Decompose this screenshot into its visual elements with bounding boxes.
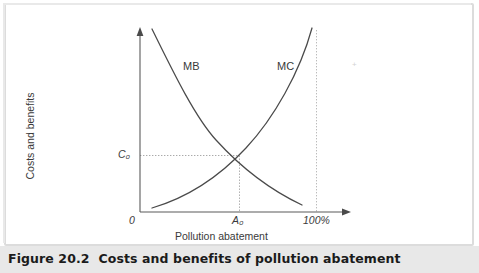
figure-screenshot: Costs and benefits Pollution abatement M… xyxy=(0,0,479,273)
y-axis-label: Costs and benefits xyxy=(24,76,36,196)
chart-svg xyxy=(0,0,479,246)
y-axis-arrowhead xyxy=(137,27,144,36)
curve-label-mc: MC xyxy=(277,60,294,72)
x-tick-label-full-abatement: 100% xyxy=(303,214,330,226)
x-axis-arrowhead xyxy=(342,209,351,216)
figure-caption: Figure 20.2 Costs and benefits of pollut… xyxy=(8,251,401,266)
curve-mc xyxy=(152,28,312,208)
curve-label-mb: MB xyxy=(183,60,200,72)
x-tick-label-origin: 0 xyxy=(129,214,135,226)
x-tick-label-a0: A₀ xyxy=(232,214,243,226)
scan-artifact-mark: + xyxy=(352,62,357,67)
figure-caption-band: Figure 20.2 Costs and benefits of pollut… xyxy=(0,246,479,273)
chart-plot-area: Costs and benefits Pollution abatement M… xyxy=(0,0,479,246)
y-tick-label-c0: C₀ xyxy=(118,148,130,160)
x-axis-label: Pollution abatement xyxy=(175,230,268,242)
curve-mb xyxy=(152,29,302,205)
